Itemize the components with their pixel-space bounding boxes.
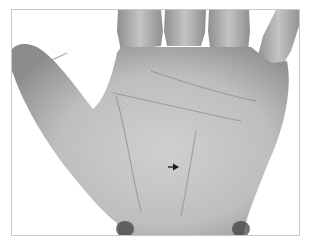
thumb-crease	[49, 53, 67, 61]
palm-photo	[11, 9, 300, 236]
index-finger	[117, 10, 163, 51]
caption	[130, 240, 180, 246]
photo-frame	[11, 9, 300, 236]
middle-finger	[164, 10, 206, 46]
